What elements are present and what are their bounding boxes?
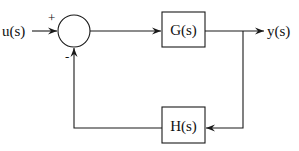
feedback-takeoff-arrow: [206, 31, 243, 128]
plus-sign: +: [48, 10, 55, 25]
block-diagram: u(s) + - G(s) y(s) H(s): [0, 0, 299, 151]
summing-junction: [58, 15, 90, 47]
g-block-label: G(s): [170, 22, 197, 39]
h-block-label: H(s): [170, 118, 197, 135]
minus-sign: -: [65, 49, 69, 64]
output-label: y(s): [267, 23, 290, 40]
feedback-return-arrow: [74, 48, 162, 128]
input-label: u(s): [2, 23, 25, 40]
